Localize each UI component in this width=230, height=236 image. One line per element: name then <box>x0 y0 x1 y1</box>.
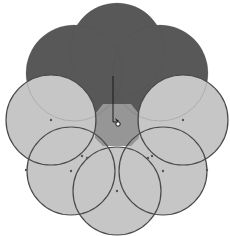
intersection-node <box>206 169 208 171</box>
intersection-node <box>86 157 88 159</box>
center-node <box>162 170 164 172</box>
center-node <box>116 190 118 192</box>
drawing-canvas[interactable] <box>0 0 230 236</box>
center-node <box>50 119 52 121</box>
cursor-circle <box>116 122 120 126</box>
intersection-node <box>25 169 27 171</box>
intersection-node <box>151 155 153 157</box>
intersection-node <box>81 155 83 157</box>
center-node <box>70 170 72 172</box>
center-node <box>182 119 184 121</box>
intersection-node <box>147 157 149 159</box>
